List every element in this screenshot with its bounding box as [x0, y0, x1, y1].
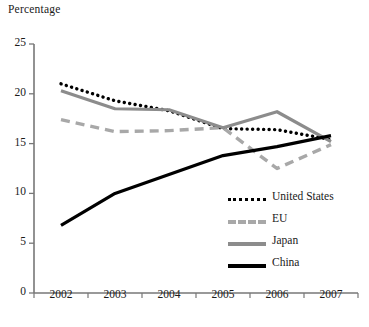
x-tick-label: 2007	[308, 288, 354, 300]
y-tick-label: 15	[4, 136, 26, 148]
y-tick-label: 5	[4, 235, 26, 247]
legend-swatch-dotted-line-icon	[228, 198, 266, 201]
x-tick-label: 2002	[38, 288, 84, 300]
legend-label-china: China	[272, 256, 299, 268]
chart-plot-area	[0, 0, 369, 327]
y-tick-label: 25	[4, 36, 26, 48]
series-line-china	[61, 136, 331, 226]
legend-label-eu: EU	[272, 212, 287, 224]
data-series-layer	[61, 84, 331, 225]
legend-swatch-dashed-line-icon	[228, 220, 266, 224]
series-line-japan	[61, 91, 331, 142]
x-tick-label: 2004	[146, 288, 192, 300]
x-tick-label: 2006	[254, 288, 300, 300]
legend-swatch-solid-gray-line-icon	[228, 242, 266, 246]
legend-label-united-states: United States	[272, 190, 334, 202]
x-tick-label: 2003	[92, 288, 138, 300]
legend-label-japan: Japan	[272, 234, 298, 246]
x-tick-label: 2005	[200, 288, 246, 300]
y-tick-label: 10	[4, 185, 26, 197]
series-line-united-states	[61, 84, 331, 140]
y-tick-label: 20	[4, 86, 26, 98]
y-tick-label: 0	[4, 285, 26, 297]
legend-swatch-solid-black-line-icon	[228, 264, 266, 268]
chart-container: Percentage 0510152025 200220032004200520…	[0, 0, 369, 327]
